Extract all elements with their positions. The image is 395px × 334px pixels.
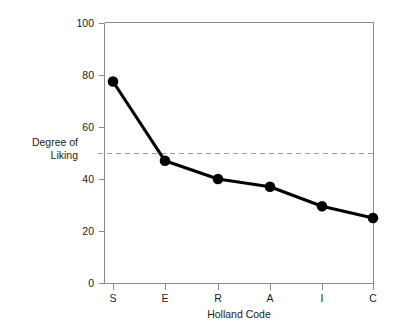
- x-tick-label-s: S: [100, 293, 126, 304]
- y-tick-label-100: 100: [64, 18, 94, 29]
- y-axis-title-line-2: Liking: [6, 149, 78, 162]
- y-tick-label-80: 80: [64, 70, 94, 81]
- data-point-a: [265, 182, 276, 193]
- x-tick-label-i: I: [309, 293, 335, 304]
- data-point-i: [317, 201, 328, 212]
- plot-area: [0, 0, 395, 334]
- data-point-c: [368, 213, 379, 224]
- chart-screenshot: 100 80 60 40 20 0 S E R A I C Holland Co…: [0, 0, 395, 334]
- x-tick-marks: [114, 284, 374, 290]
- y-tick-label-40: 40: [64, 174, 94, 185]
- data-point-s: [108, 76, 119, 87]
- y-axis-title-line-1: Degree of: [6, 136, 78, 149]
- data-point-r: [213, 174, 224, 185]
- y-tick-label-0: 0: [64, 278, 94, 289]
- series-line-degree-of-liking: [113, 82, 373, 219]
- x-tick-label-c: C: [360, 293, 386, 304]
- x-tick-label-r: R: [205, 293, 231, 304]
- data-point-e: [160, 156, 171, 167]
- chart-figure: 100 80 60 40 20 0 S E R A I C Holland Co…: [0, 0, 395, 334]
- x-tick-label-e: E: [152, 293, 178, 304]
- y-tick-label-20: 20: [64, 226, 94, 237]
- y-tick-label-60: 60: [64, 122, 94, 133]
- series-markers: [108, 76, 379, 223]
- x-tick-label-a: A: [257, 293, 283, 304]
- y-axis-title: Degree of Liking: [6, 136, 78, 162]
- x-axis-title: Holland Code: [104, 308, 374, 320]
